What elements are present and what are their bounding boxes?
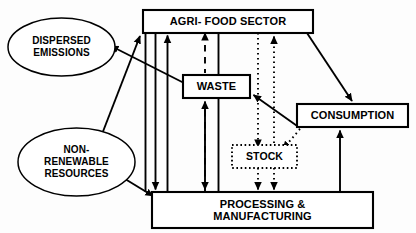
edge-agrifood-to-consumption [307,33,352,101]
node-stock [232,145,297,168]
node-waste [183,75,250,98]
diagram-canvas: AGRI- FOOD SECTOR WASTE STOCK CONSUMPTIO… [0,0,416,233]
edge-waste-to-dispersed-emissions [111,46,186,84]
node-processing-manufacturing [152,192,373,228]
node-dispersed-emissions [8,18,115,76]
node-agri-food-sector [143,10,313,33]
node-consumption [297,104,408,127]
node-non-renewable-resources [18,128,135,196]
edge-consumption-to-waste [254,95,301,128]
diagram-connectors-layer [0,0,416,233]
